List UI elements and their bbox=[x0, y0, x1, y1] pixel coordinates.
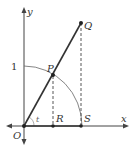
unit-circle-diagram: y x 1 O P Q R S t bbox=[0, 0, 131, 148]
y-axis-arrow-icon bbox=[22, 7, 27, 13]
x-axis-left-arrow-icon bbox=[6, 124, 12, 129]
label-R: R bbox=[55, 113, 64, 124]
label-O: O bbox=[13, 130, 21, 141]
point-Q bbox=[79, 21, 83, 25]
point-O bbox=[22, 124, 26, 128]
x-axis-label: x bbox=[121, 113, 127, 124]
tick-label-one: 1 bbox=[11, 61, 17, 72]
label-S: S bbox=[84, 113, 91, 124]
x-axis-arrow-icon bbox=[123, 124, 129, 129]
y-axis-label: y bbox=[26, 6, 33, 17]
angle-label: t bbox=[36, 115, 40, 124]
point-R bbox=[51, 124, 55, 128]
angle-arc bbox=[29, 117, 34, 126]
label-P: P bbox=[46, 63, 54, 74]
y-axis-down-arrow-icon bbox=[22, 139, 27, 145]
point-S bbox=[79, 124, 83, 128]
label-Q: Q bbox=[84, 20, 92, 31]
